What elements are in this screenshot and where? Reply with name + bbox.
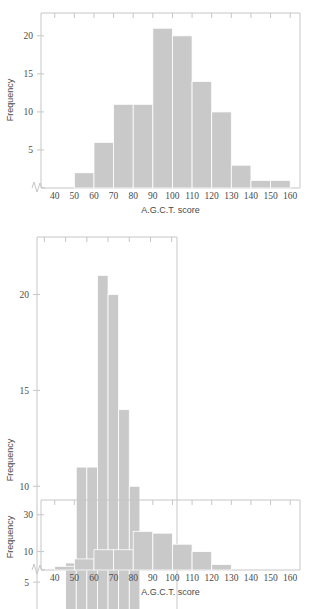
histogram-bar — [192, 552, 212, 570]
chart-1: 5101520405060708090100110120130140150160… — [0, 0, 312, 220]
x-axis-title: A.G.C.T. score — [141, 587, 200, 597]
histogram-bar — [212, 112, 232, 188]
y-axis-title: Frequency — [5, 438, 15, 481]
histogram-bar — [94, 550, 114, 570]
x-tick-label: 120 — [205, 573, 220, 583]
x-tick-label: 120 — [205, 191, 220, 201]
y-tick-label: 10 — [24, 107, 34, 117]
histogram-bar — [114, 550, 134, 570]
y-tick-label: 30 — [24, 510, 34, 520]
histogram-bar — [114, 104, 134, 188]
histogram-bar — [212, 564, 232, 570]
histogram-figure: 5101520405060708090100110120130140150160… — [0, 0, 312, 609]
x-tick-label: 40 — [50, 573, 60, 583]
y-tick-label: 10 — [20, 482, 30, 492]
histogram-bar — [133, 531, 153, 570]
x-tick-label: 50 — [70, 191, 80, 201]
x-tick-label: 80 — [128, 191, 138, 201]
chart-3: 1030405060708090100110120130140150160A.G… — [0, 492, 312, 609]
histogram-bar — [251, 180, 271, 188]
x-tick-label: 40 — [50, 191, 60, 201]
x-tick-label: 50 — [70, 573, 80, 583]
axis-break-marker — [32, 564, 45, 574]
x-axis-title: A.G.C.T. score — [141, 205, 200, 215]
y-tick-label: 20 — [20, 290, 30, 300]
histogram-panel-1: 5101520405060708090100110120130140150160… — [0, 0, 312, 220]
x-tick-label: 90 — [148, 573, 158, 583]
histogram-bar — [133, 104, 153, 188]
histogram-bar — [271, 180, 291, 188]
y-axis-title: Frequency — [5, 515, 15, 558]
y-tick-label: 15 — [24, 69, 34, 79]
x-tick-label: 70 — [109, 191, 119, 201]
x-tick-label: 140 — [244, 573, 259, 583]
y-tick-label: 20 — [24, 31, 34, 41]
histogram-bar — [231, 165, 251, 188]
x-tick-label: 80 — [128, 573, 138, 583]
histogram-bar — [55, 566, 75, 570]
histogram-bar — [192, 81, 212, 188]
x-tick-label: 150 — [263, 573, 278, 583]
x-tick-label: 110 — [185, 573, 199, 583]
histogram-bar — [172, 36, 192, 188]
histogram-panel-2: 5101520406080100120140160A.G.C.T. scoreF… — [0, 225, 312, 490]
histogram-panel-3: 1030405060708090100110120130140150160A.G… — [0, 492, 312, 609]
x-tick-label: 130 — [224, 191, 239, 201]
x-tick-label: 130 — [224, 573, 239, 583]
x-tick-label: 60 — [89, 573, 99, 583]
x-tick-label: 60 — [89, 191, 99, 201]
histogram-bar — [74, 173, 94, 188]
x-tick-label: 100 — [165, 191, 180, 201]
y-axis-title: Frequency — [5, 78, 15, 121]
x-tick-label: 160 — [283, 191, 298, 201]
histogram-bar — [172, 544, 192, 570]
histogram-bar — [94, 142, 114, 188]
histogram-bar — [153, 533, 173, 570]
x-tick-label: 100 — [165, 573, 180, 583]
chart-2: 5101520406080100120140160A.G.C.T. scoreF… — [0, 225, 312, 490]
histogram-bar — [153, 28, 173, 188]
x-tick-label: 140 — [244, 191, 259, 201]
x-tick-label: 90 — [148, 191, 158, 201]
x-tick-label: 110 — [185, 191, 199, 201]
histogram-bar — [74, 559, 94, 570]
y-tick-label: 15 — [20, 386, 30, 396]
x-tick-label: 70 — [109, 573, 119, 583]
y-tick-label: 10 — [24, 547, 34, 557]
x-tick-label: 160 — [283, 573, 298, 583]
y-tick-label: 5 — [28, 145, 33, 155]
axis-break-marker — [32, 182, 45, 192]
x-tick-label: 150 — [263, 191, 278, 201]
